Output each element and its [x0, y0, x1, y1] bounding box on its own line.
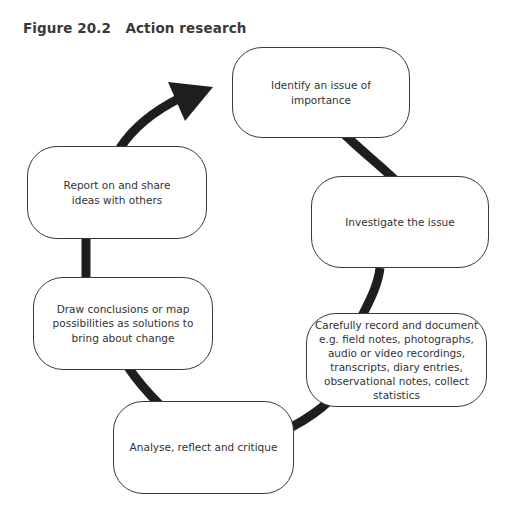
step-draw-conclusions: Draw conclusions or map possibilities as…	[33, 277, 213, 370]
step-label: Report on and share ideas with others	[56, 178, 178, 207]
step-label: Analyse, reflect and critique	[130, 440, 278, 455]
step-label: Carefully record and document e.g. field…	[315, 318, 478, 402]
step-identify-issue: Identify an issue of importance	[232, 47, 410, 138]
step-investigate-issue: Investigate the issue	[311, 176, 489, 268]
step-label: Investigate the issue	[345, 215, 455, 230]
step-record-document: Carefully record and document e.g. field…	[306, 313, 487, 407]
step-report-share: Report on and share ideas with others	[27, 146, 207, 239]
step-label: Identify an issue of importance	[243, 78, 399, 107]
step-label: Draw conclusions or map possibilities as…	[42, 302, 204, 346]
step-analyse-reflect: Analyse, reflect and critique	[113, 401, 294, 494]
